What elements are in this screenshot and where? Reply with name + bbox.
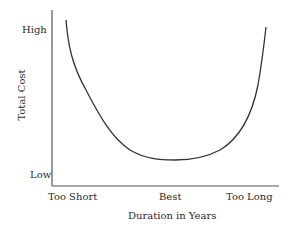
y-axis-title: Total Cost xyxy=(16,65,28,125)
x-axis-title: Duration in Years xyxy=(128,210,216,222)
x-tick-too-long: Too Long xyxy=(226,191,273,203)
y-tick-low: Low xyxy=(30,169,51,181)
x-tick-best: Best xyxy=(159,191,181,203)
x-tick-too-short: Too Short xyxy=(48,191,97,203)
total-cost-curve xyxy=(66,20,266,160)
y-tick-high: High xyxy=(22,24,47,36)
chart-container: High Low Total Cost Too Short Best Too L… xyxy=(0,0,293,228)
